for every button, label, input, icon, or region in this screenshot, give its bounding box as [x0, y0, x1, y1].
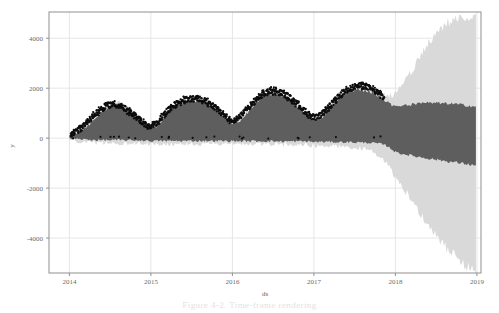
svg-text:2015: 2015 [144, 278, 159, 286]
figure-caption: Figure 4-2. Time-frame rendering [0, 300, 499, 310]
svg-text:2000: 2000 [29, 85, 44, 93]
forecast-chart: 201420152016201720182019 400020000-2000-… [0, 0, 499, 313]
svg-text:2014: 2014 [62, 278, 77, 286]
y-axis-label: y [8, 144, 16, 148]
svg-text:-4000: -4000 [27, 235, 44, 243]
svg-text:2019: 2019 [470, 278, 485, 286]
figure-caption-band: Figure 4-2. Time-frame rendering [0, 300, 499, 313]
svg-text:2016: 2016 [225, 278, 240, 286]
x-axis-label: ds [262, 290, 269, 298]
svg-text:2017: 2017 [307, 278, 322, 286]
svg-text:4000: 4000 [29, 35, 44, 43]
svg-text:2018: 2018 [388, 278, 403, 286]
svg-text:0: 0 [40, 135, 44, 143]
svg-text:-2000: -2000 [27, 185, 44, 193]
